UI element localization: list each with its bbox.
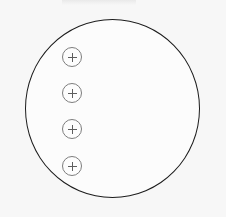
- plus-icon-vertical: [72, 89, 73, 98]
- plus-icon-vertical: [72, 125, 73, 134]
- top-strip: [62, 0, 136, 5]
- add-button-3[interactable]: [62, 119, 82, 139]
- plus-icon-vertical: [72, 53, 73, 62]
- circle-shape[interactable]: [25, 19, 200, 198]
- add-handle-column: [62, 47, 84, 187]
- add-button-2[interactable]: [62, 83, 82, 103]
- add-button-1[interactable]: [62, 47, 82, 67]
- diagram-canvas[interactable]: [0, 0, 226, 217]
- watermark-text: [40, 202, 190, 216]
- add-button-4[interactable]: [62, 156, 82, 176]
- plus-icon-vertical: [72, 162, 73, 171]
